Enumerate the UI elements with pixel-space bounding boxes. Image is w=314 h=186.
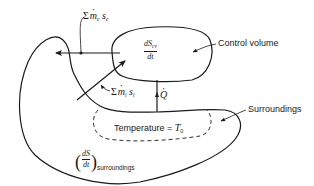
fraction-numerator: dScv <box>144 40 157 50</box>
control-volume-label: Control volume <box>218 39 279 48</box>
cv-entropy-rate: dScv dt <box>144 40 157 61</box>
diagram-canvas <box>0 0 314 186</box>
temperature-text: Temperature = <box>114 123 175 133</box>
surroundings-label: Surroundings <box>248 105 302 114</box>
surroundings-leader <box>221 110 246 121</box>
heat-rate-symbol: Q <box>160 89 167 100</box>
surroundings-entropy-rate: ( dS dt ) surroundings <box>75 150 135 171</box>
mass-flow-symbol: m <box>90 10 97 21</box>
exit-flow-label: Σme se <box>83 11 108 23</box>
inlet-subscript: i <box>125 92 127 98</box>
temperature-subscript: 0 <box>180 128 183 134</box>
inlet-flow-leader <box>101 85 110 91</box>
surroundings-fraction: dS dt <box>82 150 90 169</box>
mass-flow-symbol: m <box>118 86 125 97</box>
inlet-subscript: i <box>133 92 135 98</box>
heat-transfer-label: Q <box>160 90 167 100</box>
sum-symbol: Σ <box>83 10 89 21</box>
inlet-flow-label: Σmi si <box>111 87 135 99</box>
cv-subscript: cv <box>152 43 157 49</box>
surroundings-subscript: surroundings <box>97 165 135 172</box>
reservoir-temperature-label: Temperature = T0 <box>114 123 183 135</box>
exit-subscript: e <box>97 16 99 22</box>
open-paren: ( <box>75 153 81 171</box>
sum-symbol: Σ <box>111 86 117 97</box>
fraction-denominator: dt <box>83 161 89 169</box>
heat-transfer-arrowhead <box>155 92 159 97</box>
numerator-text: dS <box>144 39 152 48</box>
control-volume-boundary <box>112 27 212 82</box>
fraction-numerator: dS <box>82 150 90 158</box>
exit-subscript: e <box>106 16 108 22</box>
fraction-denominator: dt <box>147 53 153 61</box>
